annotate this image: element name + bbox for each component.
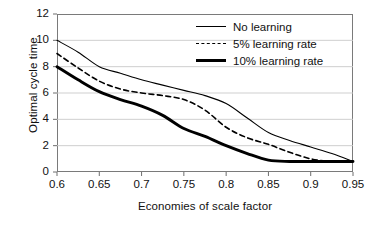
y-tick-label: 6 xyxy=(15,87,49,98)
x-tick-label: 0.8 xyxy=(204,179,248,190)
x-tick-label: 0.7 xyxy=(120,179,164,190)
series-line xyxy=(57,67,353,162)
x-tick-label: 0.75 xyxy=(162,179,206,190)
legend-label: 10% learning rate xyxy=(233,55,323,67)
legend-label: 5% learning rate xyxy=(233,38,317,50)
y-tick-label: 2 xyxy=(15,140,49,151)
legend-swatch-solid-thick-icon xyxy=(196,55,226,67)
legend-swatch-dashed-icon xyxy=(196,38,226,50)
x-tick-label: 0.65 xyxy=(77,179,121,190)
x-tick-label: 0.85 xyxy=(246,179,290,190)
chart-legend: No learning 5% learning rate 10% learnin… xyxy=(196,19,323,68)
x-tick-label: 0.95 xyxy=(331,179,375,190)
chart-canvas xyxy=(0,0,381,225)
y-tick-label: 8 xyxy=(15,61,49,72)
chart-figure: Optimal cycle time Economies of scale fa… xyxy=(0,0,381,225)
legend-item-no-learning: No learning xyxy=(196,19,323,34)
y-tick-label: 0 xyxy=(15,166,49,177)
legend-swatch-solid-thin-icon xyxy=(196,21,226,33)
legend-item-5-percent: 5% learning rate xyxy=(196,36,323,51)
legend-item-10-percent: 10% learning rate xyxy=(196,53,323,68)
x-tick-label: 0.9 xyxy=(289,179,333,190)
x-tick-label: 0.6 xyxy=(35,179,79,190)
y-tick-label: 10 xyxy=(15,34,49,45)
y-tick-label: 4 xyxy=(15,113,49,124)
legend-label: No learning xyxy=(233,21,292,33)
y-tick-label: 12 xyxy=(15,8,49,19)
